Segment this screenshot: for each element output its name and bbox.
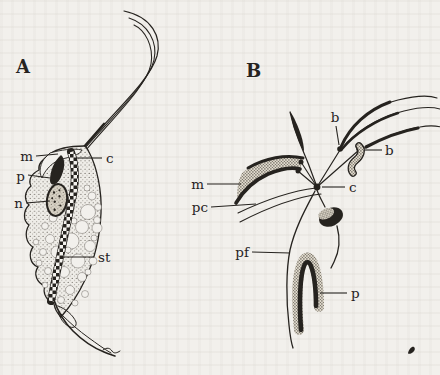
panel-a-label-n: n bbox=[14, 195, 23, 211]
panel-b: B bbox=[191, 60, 440, 348]
panel-a-title: A bbox=[15, 56, 31, 77]
panel-b-label-b-right: b bbox=[385, 142, 394, 158]
hairpin-parabasal bbox=[294, 253, 322, 331]
ink-speck bbox=[408, 347, 415, 354]
figure-svg: A bbox=[0, 0, 440, 375]
panel-a-label-p: p bbox=[16, 168, 25, 184]
panel-b-label-p: p bbox=[351, 285, 360, 301]
panel-b-label-m: m bbox=[191, 176, 204, 192]
panel-a-label-c: c bbox=[106, 150, 114, 166]
leader-line-pf bbox=[252, 252, 290, 253]
panel-b-label-c: c bbox=[349, 179, 357, 195]
pc-filaments bbox=[238, 188, 321, 222]
panel-b-annotations: b b m pc c pf p bbox=[191, 109, 393, 301]
leader-line-b-top bbox=[336, 126, 339, 145]
anterior-flagella bbox=[84, 11, 158, 150]
flagella-base bbox=[84, 124, 104, 147]
panel-b-label-b-top: b bbox=[331, 109, 340, 125]
panel-a-label-st: st bbox=[98, 249, 111, 265]
panel-b-label-pc: pc bbox=[192, 199, 208, 215]
panel-a-label-m: m bbox=[20, 148, 33, 164]
lower-blob bbox=[315, 190, 346, 268]
panel-b-title: B bbox=[246, 60, 261, 81]
panel-b-label-pf: pf bbox=[235, 244, 250, 260]
leader-line-pc bbox=[211, 204, 256, 207]
posterior-tail bbox=[54, 300, 120, 356]
panel-a: A bbox=[14, 11, 158, 356]
membrane-wing bbox=[236, 156, 317, 203]
scanned-figure-page: A bbox=[0, 0, 440, 375]
curved-stippled-body bbox=[351, 146, 361, 173]
